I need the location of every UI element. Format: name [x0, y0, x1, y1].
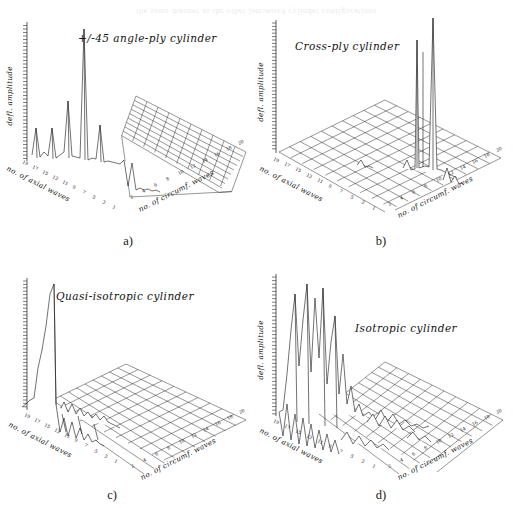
- axial-tick: 17: [34, 417, 42, 424]
- vertical-axis-b: defl. amplitude: [257, 20, 276, 153]
- plot-title-d: Isotropic cylinder: [354, 322, 458, 334]
- axial-tick: 5: [92, 194, 97, 200]
- axial-tick: 5: [350, 453, 355, 459]
- vertical-axis-label: defl. amplitude: [5, 66, 14, 126]
- surface-plot-d: defl. amplitude 19 17 15 13 11 9 7 5 3 1…: [257, 254, 513, 508]
- axial-tick: 9: [328, 443, 333, 449]
- axial-tick: 7: [84, 442, 89, 448]
- vertical-axis-a: defl. amplitude: [5, 22, 27, 161]
- panel-caption-d: d): [376, 488, 386, 502]
- vertical-axis-d: defl. amplitude: [257, 274, 276, 416]
- vertical-axis-label: defl. amplitude: [257, 320, 265, 380]
- axial-tick: 13: [54, 427, 62, 434]
- axial-tick: 11: [62, 179, 70, 186]
- axial-tick: 1: [372, 463, 377, 469]
- axial-tick: 11: [317, 177, 325, 184]
- surface-plot-c: 19 17 15 13 11 9 7 5 3 1 no. of axial wa…: [0, 254, 256, 508]
- axial-tick: 15: [44, 422, 52, 429]
- axial-tick: 19: [24, 412, 32, 419]
- axial-tick: 3: [102, 199, 107, 205]
- axial-tick: 3: [361, 458, 366, 464]
- axial-tick: 17: [32, 164, 40, 171]
- axial-tick: 3: [361, 199, 366, 205]
- axial-tick: 7: [339, 448, 344, 454]
- circumf-tick: 2: [387, 201, 392, 207]
- plot-panel-b: defl. amplitude 19 17 15 13 11 9 7 5 3 1…: [257, 0, 513, 254]
- axial-tick: 15: [42, 169, 50, 176]
- surface-plot-a: defl. amplitude 19 17 15 13 11 9 7 5 3 1…: [0, 0, 256, 254]
- axial-tick: 13: [306, 172, 314, 179]
- axial-tick: 7: [339, 188, 344, 194]
- mesh-surface-d: [319, 362, 503, 474]
- axial-tick: 11: [64, 432, 72, 439]
- plot-panel-a: defl. amplitude 19 17 15 13 11 9 7 5 3 1…: [0, 0, 256, 254]
- axial-axis-label: no. of axial waves: [7, 420, 73, 460]
- axial-tick: 19: [273, 418, 281, 425]
- axial-tick: 1: [372, 205, 377, 211]
- axial-tick: 13: [52, 174, 60, 181]
- axial-tick: 9: [72, 184, 77, 190]
- axial-tick: 15: [295, 166, 303, 173]
- vertical-axis-c: [23, 278, 27, 410]
- axial-axis-a: 19 17 15 13 11 9 7 5 3 1 no. of axial wa…: [5, 159, 116, 210]
- axial-tick: 1: [112, 204, 117, 210]
- plot-panel-d: defl. amplitude 19 17 15 13 11 9 7 5 3 1…: [257, 254, 513, 508]
- axial-tick: 17: [284, 161, 292, 168]
- surface-plot-b: defl. amplitude 19 17 15 13 11 9 7 5 3 1…: [257, 0, 513, 254]
- circumf-tick: 20: [495, 146, 503, 153]
- plot-title-b: Cross-ply cylinder: [295, 40, 400, 52]
- axial-tick: 19: [273, 156, 281, 163]
- axial-tick: 3: [104, 453, 109, 459]
- axial-tick: 5: [350, 194, 355, 200]
- circumf-tick: 2: [130, 463, 135, 469]
- axial-axis-label: no. of axial waves: [258, 164, 324, 204]
- axial-tick: 9: [74, 437, 79, 443]
- vertical-axis-label: defl. amplitude: [257, 62, 265, 122]
- axial-tick: 7: [82, 189, 87, 195]
- circumf-tick: 20: [237, 139, 245, 146]
- plot-panel-c: 19 17 15 13 11 9 7 5 3 1 no. of axial wa…: [0, 254, 256, 508]
- panel-caption-b: b): [376, 234, 386, 248]
- circumf-tick: 20: [495, 408, 503, 415]
- axial-tick: 9: [328, 183, 333, 189]
- figure-four-surface-plots: defl. amplitude 19 17 15 13 11 9 7 5 3 1…: [0, 0, 513, 508]
- plot-title-a: +/-45 angle-ply cylinder: [78, 32, 217, 44]
- panel-caption-a: a): [123, 234, 133, 248]
- plot-title-c: Quasi-isotropic cylinder: [56, 290, 194, 303]
- axial-tick: 19: [22, 159, 30, 166]
- circumf-tick: 20: [238, 408, 246, 415]
- axial-tick: 15: [295, 428, 303, 435]
- axial-tick: 5: [94, 448, 99, 454]
- panel-caption-c: c): [107, 488, 117, 502]
- axial-tick: 1: [114, 458, 119, 464]
